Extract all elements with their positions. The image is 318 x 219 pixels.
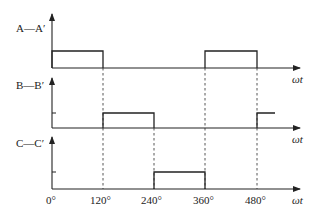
tick-0: 0° — [46, 194, 56, 206]
pulse-b-2 — [257, 113, 275, 128]
x-tick-labels: 0° 120° 240° 360° 480° — [46, 194, 266, 206]
pulse-a-1 — [52, 51, 103, 68]
panel-b-label: B—B′ — [16, 79, 44, 91]
pulse-b-1 — [103, 113, 154, 128]
timing-diagram: A—A′ ωt B—B′ ωt C—C′ ωt 0° 120° 240° 360… — [0, 0, 318, 219]
pulse-c-1 — [154, 172, 205, 189]
tick-360: 360° — [193, 194, 214, 206]
panel-a: A—A′ ωt — [16, 14, 304, 85]
pulse-a-2 — [205, 51, 257, 68]
x-axis-label-c: ωt — [292, 194, 304, 206]
panel-c-label: C—C′ — [16, 137, 44, 149]
panel-a-label: A—A′ — [16, 22, 45, 34]
tick-120: 120° — [90, 194, 111, 206]
x-axis-label-a: ωt — [292, 73, 304, 85]
x-axis-label-b: ωt — [292, 133, 304, 145]
tick-480: 480° — [245, 194, 266, 206]
tick-240: 240° — [141, 194, 162, 206]
panel-b: B—B′ ωt — [16, 78, 304, 145]
